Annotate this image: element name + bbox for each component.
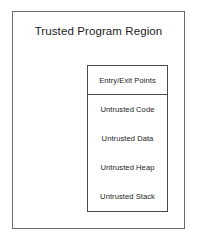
- untrusted-module-box: Entry/Exit Points Untrusted Code Untrust…: [87, 65, 168, 212]
- module-row-label: Untrusted Code: [101, 105, 155, 114]
- module-row-untrusted-data: Untrusted Data: [88, 124, 167, 153]
- trusted-program-region-title: Trusted Program Region: [13, 24, 184, 38]
- trusted-program-region-box: Trusted Program Region Entry/Exit Points…: [12, 11, 185, 229]
- module-row-entry-exit-points: Entry/Exit Points: [88, 66, 167, 95]
- module-row-untrusted-heap: Untrusted Heap: [88, 153, 167, 182]
- module-row-label: Untrusted Heap: [101, 163, 155, 172]
- module-row-untrusted-code: Untrusted Code: [88, 95, 167, 124]
- module-row-untrusted-stack: Untrusted Stack: [88, 182, 167, 211]
- module-row-label: Untrusted Data: [102, 134, 154, 143]
- module-row-label: Entry/Exit Points: [99, 76, 156, 85]
- module-row-label: Untrusted Stack: [100, 192, 155, 201]
